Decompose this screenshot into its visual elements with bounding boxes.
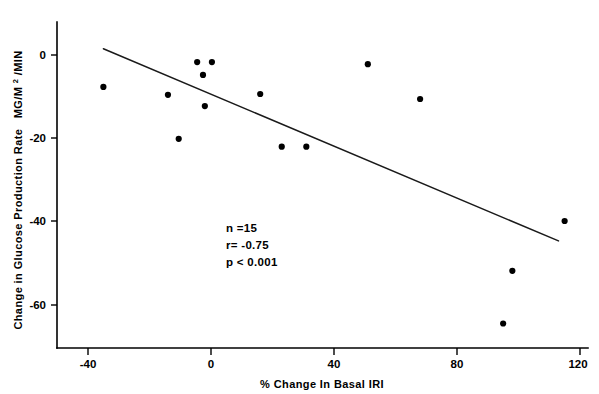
annotation-correlation: r= -0.75 [226,239,269,251]
x-tick-label-120: 120 [568,358,587,370]
data-point [257,91,263,97]
plot-canvas: 0 -20 -40 -60 -40 0 40 80 120 % Change I… [0,0,599,394]
y-axis-title-units: MG/M [12,87,24,119]
regression-line [103,49,558,241]
y-axis-ticks [51,55,57,305]
data-point [562,218,568,224]
data-point [200,72,206,78]
data-point [209,59,215,65]
y-tick-label-0: 0 [40,49,46,61]
y-axis-title: Change in Glucose Production Rate MG/M 2… [8,50,24,329]
data-point [202,103,208,109]
data-points-group [100,59,567,327]
data-point [165,92,171,98]
x-tick-label-40: 40 [328,358,341,370]
y-tick-label-neg40: -40 [29,215,46,227]
x-tick-label-0: 0 [208,358,214,370]
y-axis-title-main: Change in Glucose Production Rate [12,129,24,330]
annotation-sample-size: n =15 [226,222,258,234]
data-point [365,61,371,67]
data-point [303,144,309,150]
data-point [279,144,285,150]
x-axis-title: % Change In Basal IRI [260,378,384,390]
x-tick-label-80: 80 [451,358,464,370]
data-point [194,59,200,65]
x-axis-ticks [88,348,580,355]
data-point [100,84,106,90]
y-axis-title-group: Change in Glucose Production Rate MG/M 2… [8,50,24,329]
y-axis-title-superscript: 2 [11,79,20,84]
x-tick-label-neg40: -40 [80,358,97,370]
annotation-pvalue: p < 0.001 [226,256,278,268]
data-point [417,96,423,102]
scatter-plot-figure: 0 -20 -40 -60 -40 0 40 80 120 % Change I… [0,0,599,394]
y-axis-title-units-tail: /MIN [12,50,24,75]
y-tick-label-neg60: -60 [29,299,46,311]
data-point [509,268,515,274]
data-point [176,136,182,142]
data-point [500,320,506,326]
y-tick-label-neg20: -20 [29,132,46,144]
